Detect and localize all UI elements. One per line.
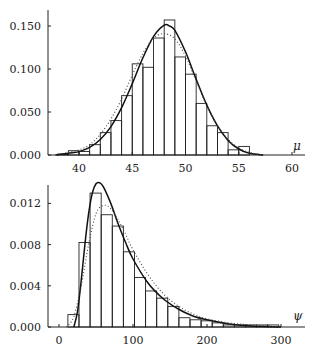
y-tick-label: 0.050 bbox=[10, 106, 42, 119]
y-tick-label: 0.008 bbox=[10, 239, 42, 252]
histogram-bar bbox=[223, 325, 234, 327]
solid-density-curve bbox=[56, 24, 264, 155]
y-tick-label: 0.004 bbox=[10, 280, 42, 293]
histogram-bar bbox=[112, 226, 123, 327]
histogram-bar bbox=[228, 150, 239, 155]
histogram-bar bbox=[100, 133, 111, 155]
x-tick-label: 0 bbox=[56, 334, 63, 347]
histogram-bar bbox=[111, 121, 122, 155]
histogram-bar bbox=[164, 20, 175, 155]
histogram-bar bbox=[157, 298, 168, 327]
histogram-bar bbox=[190, 320, 201, 327]
histogram-bar bbox=[212, 323, 223, 327]
x-tick-label: 100 bbox=[123, 334, 144, 347]
mu-histogram-plot: 0.0000.0500.1000.1504045505560μ bbox=[10, 10, 306, 175]
y-tick-label: 0.150 bbox=[10, 20, 42, 33]
dotted-density-curve bbox=[66, 205, 281, 327]
x-tick-label: 50 bbox=[179, 162, 193, 175]
x-axis-variable-label: ψ bbox=[293, 309, 303, 323]
figure: 0.0000.0500.1000.1504045505560μ 0.0000.0… bbox=[0, 0, 317, 360]
histogram-bar bbox=[186, 74, 197, 155]
x-tick-label: 300 bbox=[271, 334, 292, 347]
y-tick-label: 0.000 bbox=[10, 149, 42, 162]
x-axis-variable-label: μ bbox=[293, 139, 301, 153]
histogram-bar bbox=[143, 67, 154, 155]
y-tick-label: 0.100 bbox=[10, 63, 42, 76]
x-tick-label: 55 bbox=[232, 162, 246, 175]
histogram-bar bbox=[168, 306, 179, 327]
histogram-bar bbox=[123, 252, 134, 327]
histogram-bar bbox=[175, 57, 186, 155]
histogram-bar bbox=[101, 215, 112, 327]
x-tick-label: 200 bbox=[197, 334, 218, 347]
x-tick-label: 45 bbox=[125, 162, 139, 175]
histogram-bar bbox=[132, 64, 143, 155]
histogram-bar bbox=[134, 278, 145, 327]
histogram-bar bbox=[179, 318, 190, 327]
histogram-bar bbox=[217, 133, 228, 155]
histogram-bar bbox=[207, 126, 218, 155]
x-tick-label: 60 bbox=[285, 162, 299, 175]
y-tick-label: 0.000 bbox=[10, 321, 42, 334]
y-tick-label: 0.012 bbox=[10, 197, 42, 210]
histogram-bar bbox=[79, 152, 90, 155]
histogram-bar bbox=[196, 103, 207, 155]
histogram-bar bbox=[146, 291, 157, 327]
x-tick-label: 40 bbox=[72, 162, 86, 175]
dotted-density-curve bbox=[56, 34, 264, 155]
psi-histogram-plot: 0.0000.0040.0080.0120100200300ψ bbox=[10, 182, 306, 347]
histogram-bar bbox=[154, 38, 165, 155]
